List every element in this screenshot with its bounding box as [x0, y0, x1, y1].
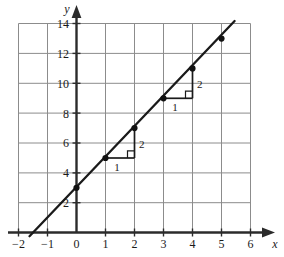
y-tick-label: 4 — [63, 166, 69, 180]
x-tick-label: 2 — [132, 237, 138, 251]
x-tick-label: 5 — [219, 237, 225, 251]
data-point — [102, 155, 108, 161]
data-point — [73, 185, 79, 191]
x-tick-label: −1 — [41, 237, 54, 251]
x-tick-label: 4 — [190, 237, 196, 251]
x-tick-label: 3 — [161, 237, 167, 251]
slope-rise-label-lower: 2 — [139, 138, 145, 150]
slope-run-label-lower: 1 — [114, 161, 120, 173]
graph-canvas: 1 2 1 2 −2 −1 0 1 2 3 4 5 6 — [0, 0, 284, 257]
y-tick-label: 10 — [57, 77, 69, 91]
x-tick-label: −2 — [12, 237, 25, 251]
y-axis-label: y — [63, 2, 70, 16]
y-tick-label: 8 — [63, 107, 69, 121]
x-axis — [8, 228, 275, 238]
y-tick-label: 2 — [63, 196, 69, 210]
data-point — [160, 95, 166, 101]
slope-rise-label-upper: 2 — [197, 78, 203, 90]
data-point — [218, 36, 224, 42]
y-tick-label: 14 — [57, 17, 69, 31]
right-angle-marker — [128, 151, 135, 158]
x-axis-arrowhead — [262, 228, 275, 238]
y-tick-label: 12 — [57, 47, 69, 61]
y-tick-label: 6 — [63, 136, 69, 150]
x-axis-label: x — [271, 237, 278, 251]
data-point — [131, 125, 137, 131]
y-axis — [72, 5, 82, 233]
coordinate-plane-figure: 1 2 1 2 −2 −1 0 1 2 3 4 5 6 — [0, 0, 284, 257]
right-angle-marker — [186, 91, 193, 98]
x-tick-label: 0 — [74, 237, 80, 251]
slope-run-label-upper: 1 — [172, 101, 178, 113]
x-tick-label: 1 — [103, 237, 109, 251]
y-axis-arrowhead — [72, 5, 82, 18]
x-tick-labels: −2 −1 0 1 2 3 4 5 6 — [12, 237, 253, 251]
data-point — [189, 65, 195, 71]
x-tick-label: 6 — [248, 237, 254, 251]
